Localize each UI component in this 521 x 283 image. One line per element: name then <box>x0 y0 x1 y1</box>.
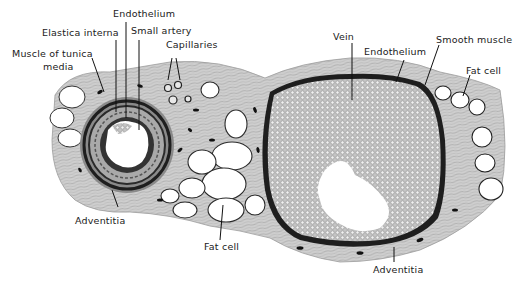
label-elastica-interna: Elastica interna <box>42 27 119 38</box>
vein <box>262 74 445 247</box>
label-muscle-tunica-media-2: media <box>43 61 74 72</box>
label-muscle-tunica-media-1: Muscle of tunica <box>12 48 93 59</box>
label-endothelium-vein: Endothelium <box>364 46 426 57</box>
label-adventitia-vein: Adventitia <box>373 264 423 275</box>
label-vein: Vein <box>333 31 354 42</box>
histology-diagram: Endothelium Elastica interna Small arter… <box>0 0 521 283</box>
label-endothelium-artery: Endothelium <box>113 8 175 19</box>
label-fat-cell-bottom: Fat cell <box>204 241 239 252</box>
label-adventitia-artery: Adventitia <box>75 215 125 226</box>
small-artery <box>80 97 174 193</box>
label-smooth-muscle: Smooth muscle <box>436 34 512 45</box>
label-small-artery: Small artery <box>131 25 192 36</box>
label-fat-cell-right: Fat cell <box>466 65 501 76</box>
label-capillaries: Capillaries <box>166 39 218 50</box>
